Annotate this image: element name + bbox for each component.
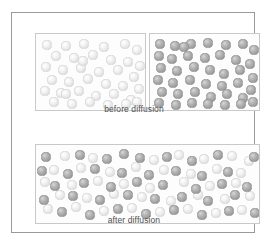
light-gas-particle — [132, 45, 141, 54]
light-gas-particle — [231, 178, 240, 187]
light-gas-particle — [245, 191, 254, 200]
dark-gas-particle — [187, 156, 196, 165]
dark-gas-particle — [119, 149, 128, 158]
dark-gas-particle — [144, 170, 153, 179]
light-gas-particle — [135, 61, 144, 70]
light-gas-particle — [42, 40, 51, 49]
dark-gas-particle — [167, 54, 176, 63]
diffusion-diagram: before diffusion after diffusion — [0, 0, 268, 245]
light-gas-particle — [76, 163, 85, 172]
light-gas-particle — [67, 180, 76, 189]
before-diffusion-left-container — [35, 33, 146, 111]
light-gas-particle — [83, 74, 92, 83]
dark-gas-particle — [106, 182, 115, 191]
light-gas-particle — [88, 153, 97, 162]
light-gas-particle — [93, 176, 102, 185]
dark-gas-particle — [155, 39, 164, 48]
light-gas-particle — [58, 65, 67, 74]
dark-gas-particle — [117, 168, 126, 177]
light-gas-particle — [40, 86, 49, 95]
dark-gas-particle — [158, 180, 167, 189]
dark-gas-particle — [63, 169, 72, 178]
dark-gas-particle — [68, 191, 77, 200]
dark-gas-particle — [245, 59, 254, 68]
dark-gas-particle — [249, 152, 258, 161]
light-gas-particle — [78, 56, 87, 65]
dark-gas-particle — [79, 178, 88, 187]
dark-gas-particle — [41, 152, 50, 161]
dark-gas-particle — [132, 177, 141, 186]
light-gas-particle — [61, 89, 70, 98]
dark-gas-particle — [221, 40, 230, 49]
light-gas-particle — [145, 183, 154, 192]
dark-gas-particle — [189, 62, 198, 71]
dark-gas-particle — [185, 75, 194, 84]
light-gas-particle — [64, 77, 73, 86]
light-gas-particle — [199, 154, 208, 163]
dark-gas-particle — [168, 78, 177, 87]
dark-gas-particle — [135, 153, 144, 162]
dark-gas-particle — [50, 181, 59, 190]
dark-gas-particle — [154, 51, 163, 60]
light-gas-particle — [119, 179, 128, 188]
light-gas-particle — [120, 39, 129, 48]
dark-gas-particle — [123, 190, 132, 199]
light-gas-particle — [113, 65, 122, 74]
dark-gas-particle — [95, 195, 104, 204]
light-gas-particle — [61, 41, 70, 50]
light-gas-particle — [220, 194, 229, 203]
light-gas-particle — [186, 169, 195, 178]
dark-gas-particle — [150, 194, 159, 203]
after-diffusion-container — [35, 144, 260, 224]
dark-gas-particle — [172, 66, 181, 75]
dark-gas-particle — [113, 204, 122, 213]
caption-before-diffusion: before diffusion — [0, 104, 268, 114]
light-gas-particle — [49, 165, 58, 174]
light-gas-particle — [183, 204, 192, 213]
dark-gas-particle — [233, 78, 242, 87]
dark-gas-particle — [246, 85, 255, 94]
light-gas-particle — [105, 167, 114, 176]
dark-gas-particle — [200, 53, 209, 62]
light-gas-particle — [71, 202, 80, 211]
dark-gas-particle — [248, 73, 257, 82]
light-gas-particle — [149, 155, 158, 164]
dark-gas-particle — [222, 89, 231, 98]
dark-gas-particle — [242, 182, 251, 191]
dark-gas-particle — [170, 41, 179, 50]
light-gas-particle — [212, 164, 221, 173]
dark-gas-particle — [230, 190, 239, 199]
light-gas-particle — [137, 192, 146, 201]
light-gas-particle — [69, 53, 78, 62]
diagram-outer-frame — [11, 12, 255, 233]
light-gas-particle — [174, 150, 183, 159]
dark-gas-particle — [231, 55, 240, 64]
light-gas-particle — [109, 89, 118, 98]
light-gas-particle — [99, 42, 108, 51]
dark-gas-particle — [203, 38, 212, 47]
dark-gas-particle — [169, 205, 178, 214]
dark-gas-particle — [219, 69, 228, 78]
dark-gas-particle — [235, 65, 244, 74]
dark-gas-particle — [153, 75, 162, 84]
light-gas-particle — [236, 168, 245, 177]
dark-gas-particle — [90, 164, 99, 173]
dark-gas-particle — [179, 42, 188, 51]
light-gas-particle — [82, 193, 91, 202]
light-gas-particle — [159, 165, 168, 174]
light-gas-particle — [43, 204, 52, 213]
light-gas-particle — [118, 81, 127, 90]
dark-gas-particle — [177, 192, 186, 201]
dark-gas-particle — [223, 167, 232, 176]
dark-gas-particle — [201, 79, 210, 88]
light-gas-particle — [227, 151, 236, 160]
dark-gas-particle — [203, 196, 212, 205]
dark-gas-particle — [39, 195, 48, 204]
dark-gas-particle — [37, 166, 46, 175]
light-gas-particle — [94, 67, 103, 76]
dark-gas-particle — [205, 65, 214, 74]
light-gas-particle — [51, 51, 60, 60]
light-gas-particle — [129, 72, 138, 81]
light-gas-particle — [131, 162, 140, 171]
dark-gas-particle — [197, 171, 206, 180]
